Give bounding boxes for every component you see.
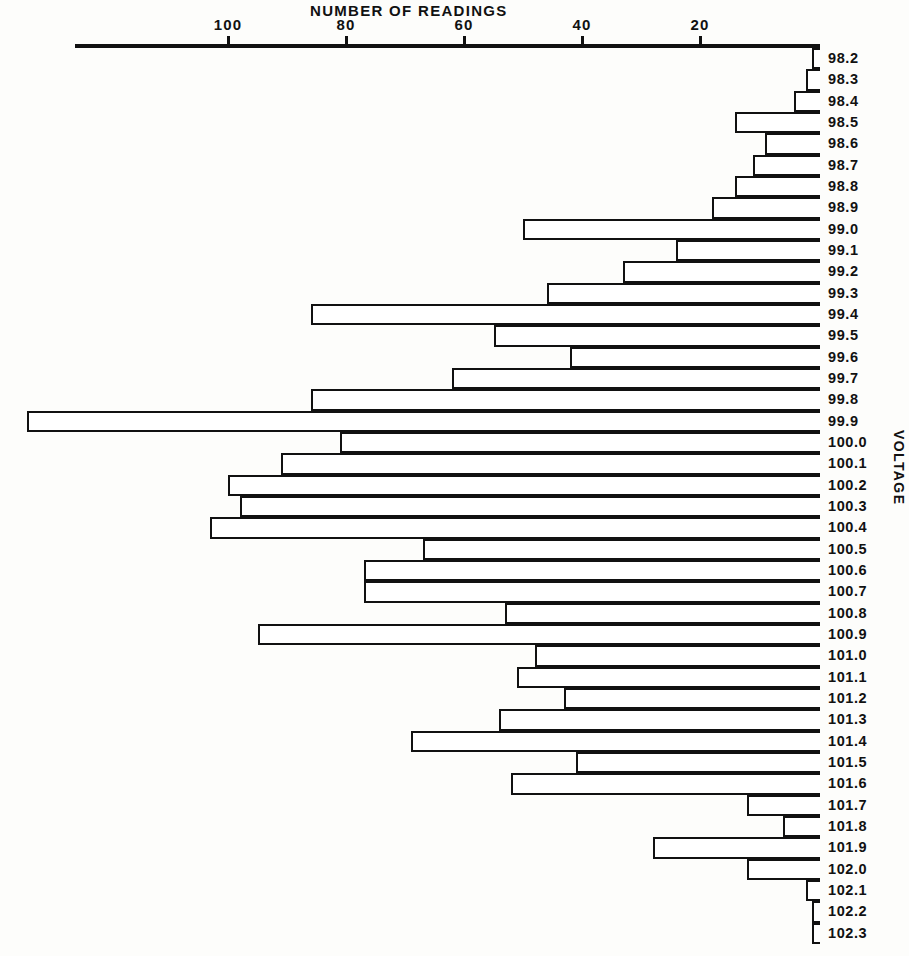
bar-row: 98.2 — [0, 48, 909, 69]
bar-row: 102.0 — [0, 859, 909, 880]
bar — [570, 347, 820, 368]
bar-row: 99.7 — [0, 368, 909, 389]
bar — [812, 923, 820, 944]
x-axis-tick — [699, 36, 702, 47]
bar-row: 100.4 — [0, 517, 909, 538]
x-axis-tick-label: 100 — [214, 16, 243, 33]
bar-row: 98.4 — [0, 91, 909, 112]
plot-area: 98.298.398.498.598.698.798.898.999.099.1… — [0, 48, 909, 948]
x-axis-tick — [345, 36, 348, 47]
bar — [812, 901, 820, 922]
y-axis-tick-label: 102.0 — [828, 859, 867, 880]
bar — [812, 48, 820, 69]
bar-row: 99.8 — [0, 389, 909, 410]
y-axis-tick-label: 102.3 — [828, 923, 867, 944]
bar-row: 99.2 — [0, 261, 909, 282]
bar — [547, 283, 820, 304]
bar — [364, 581, 820, 602]
bar — [747, 859, 820, 880]
bar-row: 101.6 — [0, 773, 909, 794]
bar-row: 102.1 — [0, 880, 909, 901]
bar-row: 99.1 — [0, 240, 909, 261]
bar-row: 101.7 — [0, 795, 909, 816]
y-axis-tick-label: 98.4 — [828, 91, 859, 112]
bar-row: 99.3 — [0, 283, 909, 304]
bar — [735, 112, 820, 133]
bar — [653, 837, 820, 858]
bar — [340, 432, 820, 453]
bar-row: 100.2 — [0, 475, 909, 496]
bar-row: 101.9 — [0, 837, 909, 858]
y-axis-tick-label: 99.6 — [828, 347, 859, 368]
y-axis-tick-label: 101.6 — [828, 773, 867, 794]
y-axis-tick-label: 99.1 — [828, 240, 859, 261]
y-axis-tick-label: 100.7 — [828, 581, 867, 602]
bar-row: 100.6 — [0, 560, 909, 581]
y-axis-tick-label: 101.1 — [828, 667, 867, 688]
y-axis-tick-label: 100.3 — [828, 496, 867, 517]
bar-row: 101.2 — [0, 688, 909, 709]
y-axis-tick-label: 98.5 — [828, 112, 859, 133]
y-axis-tick-label: 101.9 — [828, 837, 867, 858]
bar-row: 100.8 — [0, 603, 909, 624]
y-axis-tick-label: 102.1 — [828, 880, 867, 901]
y-axis-tick-label: 99.9 — [828, 411, 859, 432]
x-axis-tick — [227, 36, 230, 47]
x-axis-tick-label: 60 — [454, 16, 473, 33]
bar — [499, 709, 820, 730]
y-axis-tick-label: 98.2 — [828, 48, 859, 69]
y-axis-tick-label: 100.4 — [828, 517, 867, 538]
y-axis-tick-label: 100.2 — [828, 475, 867, 496]
bar — [623, 261, 820, 282]
bar-row: 98.8 — [0, 176, 909, 197]
bar-row: 100.0 — [0, 432, 909, 453]
y-axis-tick-label: 98.3 — [828, 69, 859, 90]
bar — [535, 645, 820, 666]
bar-row: 101.3 — [0, 709, 909, 730]
x-axis: NUMBER OF READINGS 10080604020 — [0, 0, 909, 48]
bar-row: 98.3 — [0, 69, 909, 90]
y-axis-tick-label: 100.5 — [828, 539, 867, 560]
bar — [228, 475, 820, 496]
bar — [423, 539, 820, 560]
bar — [806, 69, 820, 90]
bar — [210, 517, 820, 538]
bar-row: 101.4 — [0, 731, 909, 752]
y-axis-tick-label: 101.0 — [828, 645, 867, 666]
bar-row: 101.1 — [0, 667, 909, 688]
x-axis-tick — [463, 36, 466, 47]
bar — [452, 368, 820, 389]
x-axis-tick — [581, 36, 584, 47]
bar-row: 98.6 — [0, 133, 909, 154]
y-axis-tick-label: 101.4 — [828, 731, 867, 752]
bar — [517, 667, 820, 688]
y-axis-tick-label: 100.6 — [828, 560, 867, 581]
bar — [258, 624, 821, 645]
histogram-chart: NUMBER OF READINGS 10080604020 98.298.39… — [0, 0, 909, 956]
bar-row: 100.7 — [0, 581, 909, 602]
x-axis-tick-label: 80 — [336, 16, 355, 33]
bar — [411, 731, 820, 752]
x-axis-tick-label: 20 — [690, 16, 709, 33]
y-axis-tick-label: 99.0 — [828, 219, 859, 240]
bar-row: 98.5 — [0, 112, 909, 133]
y-axis-tick-label: 99.3 — [828, 283, 859, 304]
bar — [564, 688, 820, 709]
bar — [783, 816, 820, 837]
y-axis-tick-label: 98.9 — [828, 197, 859, 218]
bar-row: 99.4 — [0, 304, 909, 325]
y-axis-tick-label: 98.8 — [828, 176, 859, 197]
bar — [747, 795, 820, 816]
bar-row: 102.3 — [0, 923, 909, 944]
y-axis-tick-label: 100.1 — [828, 453, 867, 474]
bar — [794, 91, 820, 112]
bar — [511, 773, 820, 794]
bar — [576, 752, 820, 773]
bar — [364, 560, 820, 581]
bar — [240, 496, 820, 517]
bar — [735, 176, 820, 197]
bar-row: 98.9 — [0, 197, 909, 218]
bar-row: 98.7 — [0, 155, 909, 176]
bar-row: 100.5 — [0, 539, 909, 560]
bar-row: 101.5 — [0, 752, 909, 773]
